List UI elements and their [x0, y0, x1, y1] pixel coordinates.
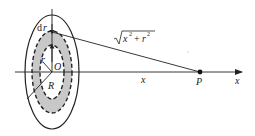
- label-origin: O: [54, 61, 61, 72]
- label-axis-x: x: [234, 75, 240, 86]
- label-dr: r: [43, 22, 47, 33]
- hypotenuse-label: x 2 + r 2: [114, 31, 155, 44]
- label-distance-x: x: [140, 74, 146, 85]
- sqrt-plus: +: [134, 33, 140, 44]
- sqrt-x-exp: 2: [129, 31, 132, 37]
- sqrt-x: x: [122, 33, 128, 44]
- disk-field-diagram: d r r O R x P x x 2 + r 2: [0, 0, 255, 136]
- sqrt-r: r: [142, 33, 146, 44]
- label-R: R: [47, 80, 54, 91]
- label-P: P: [195, 76, 202, 87]
- label-r: r: [41, 54, 45, 65]
- sqrt-r-exp: 2: [147, 31, 150, 37]
- stray-dot: [188, 52, 189, 53]
- point-P: [198, 70, 203, 75]
- label-dr-d: d: [37, 22, 42, 33]
